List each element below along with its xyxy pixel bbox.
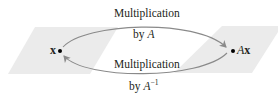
by-text: by: [129, 80, 143, 92]
point-x: [58, 49, 62, 53]
inverse-mapping-diagram: x Ax Multiplication by A Multiplication …: [0, 0, 278, 96]
top-arrow-caption-line2: by A: [133, 28, 154, 40]
bottom-arrow-caption-line2: by A−1: [129, 78, 158, 92]
vector-Ax-label: Ax: [237, 43, 250, 58]
matrix-A-symbol: A: [147, 28, 154, 40]
point-Ax: [231, 49, 235, 53]
top-arrow-caption-line1: Multiplication: [114, 7, 180, 19]
codomain-plane: [174, 26, 278, 73]
domain-plane: [8, 27, 118, 74]
vector-x-label: x: [50, 43, 56, 58]
bottom-arrow-caption-line1: Multiplication: [114, 58, 180, 70]
by-text: by: [133, 28, 147, 40]
inverse-superscript: −1: [150, 78, 158, 87]
vector-x-symbol: x: [244, 43, 250, 57]
